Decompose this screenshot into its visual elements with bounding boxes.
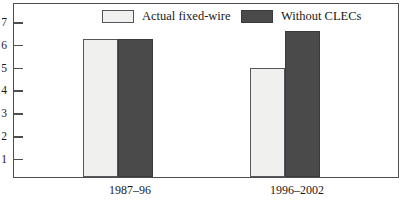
light-swatch-icon	[102, 10, 134, 23]
legend-entry-actual-fixed-wire[interactable]: Actual fixed-wire	[102, 9, 231, 23]
y-tick-label: 5	[0, 60, 7, 77]
bar-actual-fixed-wire-1987-96[interactable]	[83, 39, 118, 177]
y-tick-label: 6	[0, 37, 7, 54]
x-axis-labels: 1987–96 1996–2002	[13, 182, 399, 202]
legend-entry-without-clecs[interactable]: Without CLECs	[241, 9, 361, 23]
y-tick-label: 7	[0, 14, 7, 31]
bar-actual-fixed-wire-1996-2002[interactable]	[250, 68, 285, 177]
y-tick-label: 4	[0, 82, 7, 99]
legend: Actual fixed-wire Without CLECs	[14, 4, 398, 30]
x-tick-label-1996-2002: 1996–2002	[270, 182, 324, 198]
plot-area: 7 6 5 4 3 2 1	[13, 3, 399, 178]
bar-chart-figure: 7 6 5 4 3 2 1	[0, 0, 412, 203]
y-tick-label: 1	[0, 151, 7, 168]
dark-swatch-icon	[241, 10, 273, 23]
x-tick-label-1987-96: 1987–96	[109, 182, 151, 198]
legend-label: Actual fixed-wire	[142, 9, 231, 23]
y-tick-label: 2	[0, 128, 7, 145]
bar-without-clecs-1987-96[interactable]	[118, 39, 153, 177]
legend-label: Without CLECs	[281, 9, 361, 23]
y-tick-label: 3	[0, 105, 7, 122]
bar-without-clecs-1996-2002[interactable]	[285, 31, 320, 177]
